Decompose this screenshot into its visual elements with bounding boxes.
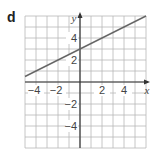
axes xyxy=(25,12,150,148)
tick-labels: xy−4−22442−2−4 xyxy=(28,12,150,132)
y-tick-label: 4 xyxy=(71,32,77,44)
y-tick-label: −2 xyxy=(64,98,77,110)
y-axis-arrow-icon xyxy=(78,12,83,18)
y-axis-label: y xyxy=(71,12,77,24)
x-axis-label: x xyxy=(144,84,150,96)
x-tick-label: 4 xyxy=(121,84,127,96)
x-tick-label: −2 xyxy=(50,84,63,96)
x-tick-label: −4 xyxy=(28,84,41,96)
x-tick-label: 2 xyxy=(99,84,105,96)
y-tick-label: 2 xyxy=(71,54,77,66)
line-series xyxy=(25,16,146,77)
y-tick-label: −4 xyxy=(64,120,77,132)
plotted-line xyxy=(25,16,146,77)
coordinate-plane: xy−4−22442−2−4 xyxy=(0,0,154,160)
